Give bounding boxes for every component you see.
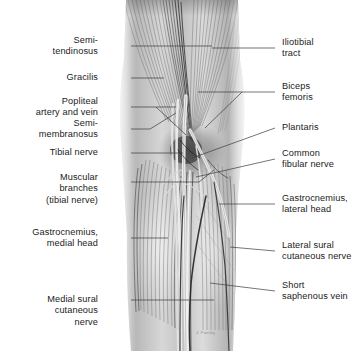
label-biceps-femoris: Bicepsfemoris [282, 81, 313, 104]
label-gastrocnemius-medial: Gastrocnemius,medial head [32, 227, 98, 250]
label-semimembranosus: Semi-membranosus [39, 118, 98, 141]
label-line: Short [282, 280, 348, 291]
label-line: tract [282, 48, 314, 59]
label-line: cutaneous nerve [282, 251, 351, 262]
label-line: Medial sural [47, 294, 98, 305]
label-semitendinosus: Semi-tendinosus [53, 35, 98, 58]
anatomy-figure: Semi-tendinosusGracilisPoplitealartery a… [0, 0, 362, 351]
label-line: fibular nerve [282, 159, 334, 170]
label-line: Popliteal [36, 96, 98, 107]
label-line: medial head [32, 238, 98, 249]
illustration-credit: J. Pansky [196, 330, 215, 335]
label-line: Iliotibial [282, 37, 314, 48]
label-iliotibial-tract: Iliotibialtract [282, 37, 314, 60]
label-line: lateral head [282, 204, 348, 215]
limb-body [110, 0, 255, 351]
label-line: Common [282, 148, 334, 159]
label-line: Gracilis [67, 72, 98, 83]
label-line: Lateral sural [282, 240, 351, 251]
leader-lateral-sural-nerve [230, 247, 275, 251]
label-line: Gastrocnemius, [32, 227, 98, 238]
label-medial-sural-nerve: Medial suralcutaneousnerve [47, 294, 98, 328]
label-lateral-sural-nerve: Lateral suralcutaneous nerve [282, 240, 351, 263]
label-line: Semi- [53, 35, 98, 46]
label-plantaris: Plantaris [282, 122, 319, 133]
label-popliteal-artery-vein: Poplitealartery and vein [36, 96, 98, 119]
label-line: nerve [47, 317, 98, 328]
label-tibial-nerve: Tibial nerve [50, 147, 98, 158]
label-line: artery and vein [36, 107, 98, 118]
label-gracilis: Gracilis [67, 72, 98, 83]
label-gastrocnemius-lateral: Gastrocnemius,lateral head [282, 193, 348, 216]
label-line: Gastrocnemius, [282, 193, 348, 204]
label-short-saphenous-vein: Shortsaphenous vein [282, 280, 348, 303]
label-muscular-branches: Muscularbranches(tibial nerve) [46, 172, 98, 206]
label-line: Tibial nerve [50, 147, 98, 158]
label-line: Muscular [46, 172, 98, 183]
label-line: femoris [282, 92, 313, 103]
label-common-fibular-nerve: Commonfibular nerve [282, 148, 334, 171]
label-line: saphenous vein [282, 291, 348, 302]
label-line: Semi- [39, 118, 98, 129]
label-line: tendinosus [53, 46, 98, 57]
label-line: Biceps [282, 81, 313, 92]
label-line: membranosus [39, 129, 98, 140]
label-line: cutaneous [47, 305, 98, 316]
label-line: branches [46, 183, 98, 194]
label-line: (tibial nerve) [46, 195, 98, 206]
label-line: Plantaris [282, 122, 319, 133]
